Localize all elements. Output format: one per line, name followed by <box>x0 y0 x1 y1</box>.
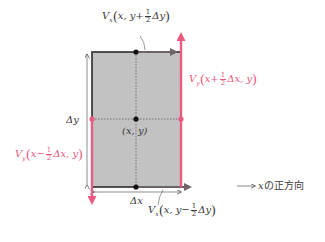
right-midpoint <box>178 116 183 121</box>
label-vy-left: Vy(x−12Δx, y) <box>15 147 83 162</box>
x-direction-legend: xの正方向 <box>258 181 304 191</box>
label-vy-right: Vy(x+12Δx, y) <box>189 72 257 87</box>
left-midpoint <box>89 116 94 121</box>
label-vx-top: Vx(x, y+12Δy) <box>102 9 170 24</box>
top-midpoint <box>133 49 138 54</box>
label-vx-bottom: Vx(x, y−12Δy) <box>148 203 216 218</box>
top-label-leader <box>140 36 145 50</box>
dx-label: Δx <box>130 196 143 206</box>
dy-label: Δy <box>66 115 79 125</box>
center-point <box>133 116 138 121</box>
center-label: (x, y) <box>122 126 147 136</box>
bottom-midpoint <box>133 184 138 189</box>
